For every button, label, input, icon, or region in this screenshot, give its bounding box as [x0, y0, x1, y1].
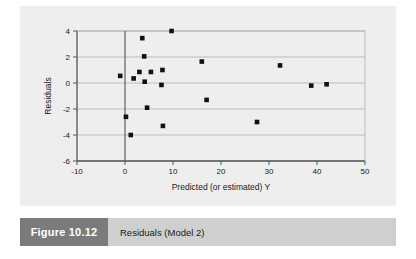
figure-caption: Residuals (Model 2)	[120, 218, 204, 246]
data-point	[118, 74, 123, 79]
axis-lines	[77, 31, 365, 161]
chart-panel: -1001020304050 420-2-4-6 Predicted (or e…	[20, 6, 396, 206]
scatter-plot: -1001020304050 420-2-4-6 Predicted (or e…	[20, 6, 396, 206]
y-tick-label: -2	[63, 105, 71, 114]
data-point	[140, 36, 145, 41]
data-point	[255, 120, 260, 125]
y-tick-label: -4	[63, 131, 71, 140]
y-axis-title: Residuals	[43, 77, 53, 114]
x-tick-label: 40	[313, 167, 322, 176]
x-tick-label: 10	[169, 167, 178, 176]
data-point	[278, 63, 283, 68]
data-point	[309, 83, 314, 88]
x-axis-ticks: -1001020304050	[71, 161, 370, 176]
x-tick-label: 0	[123, 167, 128, 176]
figure-screenshot: -1001020304050 420-2-4-6 Predicted (or e…	[0, 0, 416, 259]
y-tick-label: -6	[63, 157, 71, 166]
data-point	[137, 70, 142, 75]
data-point	[204, 98, 209, 103]
data-point	[145, 105, 150, 110]
y-tick-label: 4	[66, 27, 71, 36]
x-axis-title: Predicted (or estimated) Y	[172, 182, 271, 192]
data-point	[124, 115, 129, 120]
data-point	[128, 133, 133, 138]
data-point	[142, 54, 147, 59]
y-tick-label: 0	[66, 79, 71, 88]
x-tick-label: 30	[265, 167, 274, 176]
data-point	[160, 68, 165, 73]
data-point	[159, 83, 164, 88]
data-point	[131, 76, 136, 81]
data-point	[142, 79, 147, 84]
x-tick-label: 50	[361, 167, 370, 176]
grid-lines	[77, 31, 365, 161]
data-point	[169, 29, 174, 34]
data-point	[324, 82, 329, 87]
y-tick-label: 2	[66, 53, 71, 62]
x-tick-label: 20	[217, 167, 226, 176]
data-point	[161, 124, 166, 129]
figure-number-badge: Figure 10.12	[20, 218, 108, 246]
y-axis-ticks: 420-2-4-6	[63, 27, 77, 166]
x-tick-label: -10	[71, 167, 83, 176]
data-point	[200, 59, 205, 64]
scatter-plot-svg: -1001020304050 420-2-4-6 Predicted (or e…	[20, 6, 396, 206]
figure-number-label: Figure 10.12	[31, 226, 98, 238]
data-point	[149, 70, 154, 75]
